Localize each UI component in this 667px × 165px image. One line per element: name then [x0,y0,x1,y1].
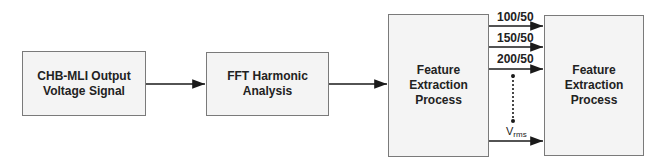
output-label-200-50: 200/50 [497,52,534,66]
block-label: FFT Harmonic Analysis [207,69,328,99]
block-label: CHB-MLI Output Voltage Signal [34,69,134,99]
vrms-subscript: rms [513,130,526,139]
output-label-150-50: 150/50 [497,31,534,45]
block-feature-extraction-1: Feature Extraction Process [388,14,489,157]
block-fft-analysis: FFT Harmonic Analysis [206,52,329,116]
output-label-vrms: Vrms [506,125,527,139]
block-label: Feature Extraction Process [554,63,634,108]
block-feature-extraction-2: Feature Extraction Process [544,15,644,156]
output-label-100-50: 100/50 [497,10,534,24]
block-input-signal: CHB-MLI Output Voltage Signal [22,51,146,116]
block-label: Feature Extraction Process [399,63,479,108]
